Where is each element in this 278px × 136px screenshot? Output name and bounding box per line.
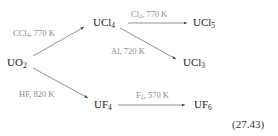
condition-ucl4-to-ucl5: Cl2, 770 K [131, 10, 167, 20]
species-uo2-base: UO [7, 56, 23, 68]
condition-text-post: , 770 K [30, 28, 55, 38]
species-uf6: UF6 [194, 99, 212, 111]
reaction-scheme-diagram: UO2 UCl4 UCl5 UCl3 UF4 UF6 CCl4, 770 K C… [0, 0, 278, 136]
species-ucl3-sub: 3 [201, 61, 205, 70]
condition-ucl4-to-ucl3: Al, 720 K [111, 47, 145, 56]
species-uo2: UO2 [7, 57, 27, 69]
species-ucl5: UCl5 [193, 17, 215, 29]
species-ucl3-base: UCl [183, 56, 201, 68]
species-uf6-base: UF [194, 98, 208, 110]
condition-text: CCl [13, 28, 27, 38]
equation-number: (27.43) [232, 119, 264, 130]
species-uo2-sub: 2 [23, 61, 27, 70]
species-ucl3: UCl3 [183, 57, 205, 69]
species-uf4-base: UF [94, 98, 108, 110]
condition-uo2-to-ucl4: CCl4, 770 K [13, 29, 55, 39]
species-uf6-sub: 6 [208, 103, 212, 112]
species-uf4: UF4 [94, 99, 112, 111]
species-ucl4: UCl4 [93, 17, 115, 29]
species-uf4-sub: 4 [108, 103, 112, 112]
condition-uo2-to-uf4: HF, 820 K [19, 90, 54, 99]
condition-text: HF, 820 K [19, 89, 54, 99]
condition-text: Cl [131, 9, 139, 19]
condition-text: Al, 720 K [111, 46, 145, 56]
reaction-arrows [0, 0, 278, 136]
species-ucl4-sub: 4 [111, 21, 115, 30]
condition-text-post: , 770 K [142, 9, 167, 19]
species-ucl4-base: UCl [93, 16, 111, 28]
condition-uf4-to-uf6: F2, 570 K [136, 91, 169, 101]
species-ucl5-base: UCl [193, 16, 211, 28]
species-ucl5-sub: 5 [211, 21, 215, 30]
condition-text-post: , 570 K [144, 90, 169, 100]
